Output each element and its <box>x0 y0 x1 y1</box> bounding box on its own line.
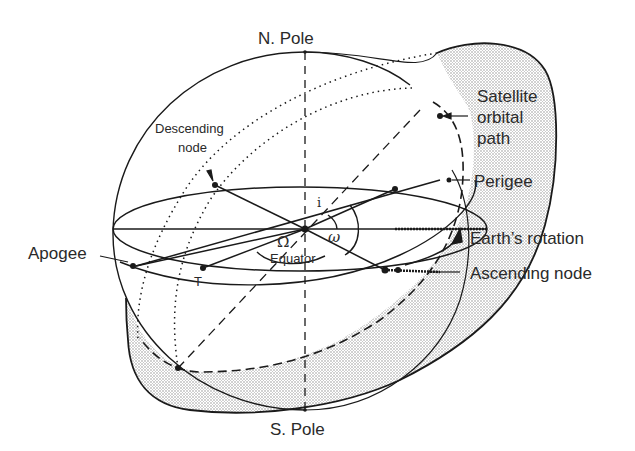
argument-of-perigee-arc <box>345 205 358 255</box>
right-ascension-symbol: Ω <box>277 235 289 250</box>
orbit-diagram: N. Pole S. Pole Satellite orbital path P… <box>0 0 635 451</box>
apogee-label: Apogee <box>28 245 87 262</box>
inclination-symbol: i <box>317 196 321 209</box>
ascending-node-label: Ascending node <box>470 265 592 282</box>
earth-rotation-label: Earth’s rotation <box>470 230 584 247</box>
satellite-path-label-line3: path <box>477 130 510 147</box>
south-pole-label: S. Pole <box>270 421 325 438</box>
descending-node-label-line1: Descending <box>155 122 224 135</box>
equator-label: Equator <box>270 252 316 265</box>
descending-node-label-line2: node <box>178 141 207 154</box>
perigee-label: Perigee <box>474 173 533 190</box>
north-pole-label: N. Pole <box>258 30 314 47</box>
diagram-canvas <box>0 0 635 451</box>
argument-of-perigee-symbol: ω <box>328 230 340 245</box>
satellite-path-label-line2: orbital <box>477 109 523 126</box>
satellite-path-label-line1: Satellite <box>477 88 537 105</box>
point-t-label: T <box>194 275 202 288</box>
